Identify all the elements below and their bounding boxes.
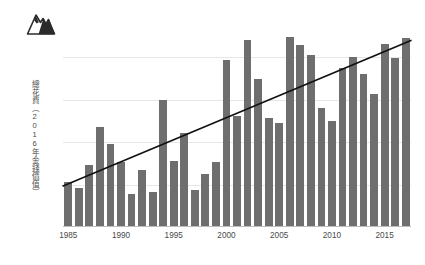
bar-slot — [253, 36, 264, 226]
plot-area — [63, 36, 411, 227]
bar[interactable] — [360, 74, 368, 226]
bar-slot — [295, 36, 306, 226]
bar[interactable] — [254, 79, 262, 226]
bar-slot — [316, 36, 327, 226]
bar[interactable] — [180, 133, 188, 226]
bar[interactable] — [191, 190, 199, 227]
x-tick-label: 2015 — [376, 231, 394, 240]
x-tick-label: 2000 — [217, 231, 235, 240]
bar[interactable] — [402, 38, 410, 226]
bar-slot — [284, 36, 295, 226]
x-tick-label: 1995 — [165, 231, 183, 240]
bar-slot — [200, 36, 211, 226]
bar-slot — [168, 36, 179, 226]
bar[interactable] — [391, 58, 399, 226]
bar-slot — [401, 36, 412, 226]
bar-chart: 總花費（2016年金錢價值） 0億 5億 10億 15億 20億 1985199… — [0, 0, 425, 265]
bar-slot — [348, 36, 359, 226]
bar-slot — [126, 36, 137, 226]
bar-slot — [369, 36, 380, 226]
x-axis-line — [63, 226, 411, 227]
bar[interactable] — [339, 68, 347, 226]
bar-slot — [116, 36, 127, 226]
bar[interactable] — [138, 170, 146, 226]
x-tick-label: 1985 — [59, 231, 77, 240]
bar-slot — [211, 36, 222, 226]
x-tick-label: 2005 — [270, 231, 288, 240]
bar[interactable] — [286, 37, 294, 226]
mountain-peaks-logo — [26, 11, 62, 37]
bar[interactable] — [233, 116, 241, 226]
bar[interactable] — [149, 192, 157, 226]
bar[interactable] — [201, 174, 209, 226]
bar-slot — [179, 36, 190, 226]
bar[interactable] — [85, 165, 93, 226]
bar-series — [63, 36, 411, 226]
bar-slot — [263, 36, 274, 226]
bar[interactable] — [223, 60, 231, 226]
bar[interactable] — [64, 182, 72, 226]
bar[interactable] — [296, 45, 304, 226]
x-axis: 1985199019952000200520102015 — [63, 231, 411, 245]
bar[interactable] — [328, 121, 336, 226]
bar-slot — [147, 36, 158, 226]
bar[interactable] — [128, 194, 136, 226]
x-tick-label: 1990 — [112, 231, 130, 240]
bar-slot — [158, 36, 169, 226]
bar[interactable] — [117, 162, 125, 226]
bar-slot — [337, 36, 348, 226]
bar-slot — [274, 36, 285, 226]
bar-slot — [74, 36, 85, 226]
bar-slot — [137, 36, 148, 226]
y-axis-title: 總花費（2016年金錢價值） — [23, 58, 39, 218]
bar-slot — [190, 36, 201, 226]
bar[interactable] — [349, 57, 357, 226]
bar-slot — [306, 36, 317, 226]
bar[interactable] — [96, 127, 104, 226]
bar-slot — [84, 36, 95, 226]
bar[interactable] — [159, 100, 167, 226]
bar-slot — [105, 36, 116, 226]
bar[interactable] — [75, 188, 83, 226]
bar[interactable] — [107, 144, 115, 226]
bar-slot — [95, 36, 106, 226]
bar-slot — [232, 36, 243, 226]
bar-slot — [379, 36, 390, 226]
bar[interactable] — [370, 94, 378, 226]
bar[interactable] — [244, 40, 252, 226]
bar-slot — [358, 36, 369, 226]
bar[interactable] — [307, 55, 315, 226]
bar[interactable] — [275, 123, 283, 226]
bar[interactable] — [212, 162, 220, 227]
bar[interactable] — [318, 108, 326, 226]
bar[interactable] — [381, 44, 389, 227]
bar-slot — [327, 36, 338, 226]
bar[interactable] — [170, 161, 178, 226]
bar-slot — [390, 36, 401, 226]
bar-slot — [242, 36, 253, 226]
x-tick-label: 2010 — [323, 231, 341, 240]
bar-slot — [221, 36, 232, 226]
bar[interactable] — [265, 118, 273, 226]
bar-slot — [63, 36, 74, 226]
